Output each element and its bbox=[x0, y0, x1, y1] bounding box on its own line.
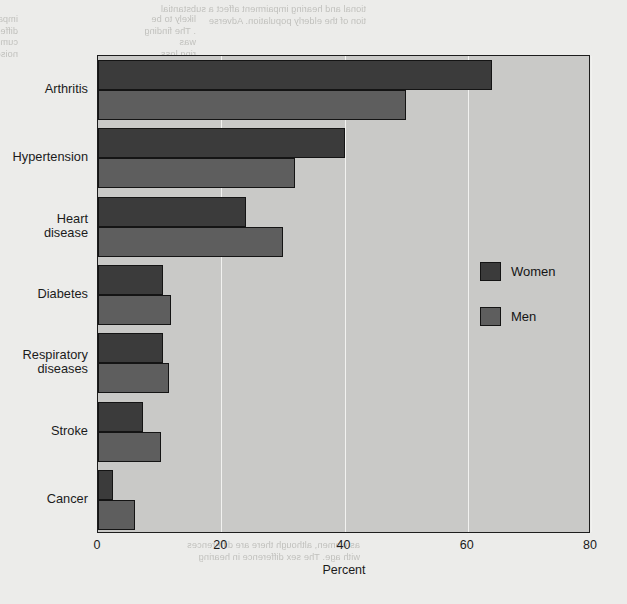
legend-item: Women bbox=[480, 262, 556, 281]
bar bbox=[98, 158, 295, 188]
bar bbox=[98, 470, 113, 500]
bar bbox=[98, 500, 135, 530]
background-bleed-text-top-left: impairment may be attributed in part to … bbox=[0, 14, 18, 60]
x-tick-label: 40 bbox=[337, 538, 351, 552]
legend-swatch-men bbox=[480, 307, 501, 326]
y-category-label: Heart disease bbox=[44, 212, 88, 240]
bar bbox=[98, 363, 169, 393]
y-category-label: Arthritis bbox=[45, 82, 88, 96]
y-category-label: Hypertension bbox=[13, 150, 88, 164]
legend-label: Men bbox=[511, 309, 536, 324]
gridline-80 bbox=[591, 56, 592, 532]
background-bleed-text-top-mid: likely to be . The finding was ring loss bbox=[20, 14, 196, 60]
gridline-20 bbox=[221, 56, 222, 532]
x-tick-label: 60 bbox=[460, 538, 474, 552]
bar bbox=[98, 402, 143, 432]
y-category-label: Diabetes bbox=[37, 287, 88, 301]
legend-swatch-women bbox=[480, 262, 501, 281]
bar bbox=[98, 227, 283, 257]
bar bbox=[98, 265, 163, 295]
bar bbox=[98, 295, 171, 325]
bar bbox=[98, 432, 161, 462]
x-tick-label: 80 bbox=[583, 538, 597, 552]
y-category-label: Respiratory diseases bbox=[23, 348, 88, 376]
background-bleed-text-bottom: as women, although there are differences… bbox=[98, 540, 360, 563]
x-tick-label: 20 bbox=[213, 538, 227, 552]
chart-figure: WomenMen bbox=[97, 55, 590, 533]
chart-legend: WomenMen bbox=[480, 262, 556, 352]
gridline-40 bbox=[345, 56, 346, 532]
legend-item: Men bbox=[480, 307, 556, 326]
gridline-60 bbox=[468, 56, 469, 532]
bar bbox=[98, 90, 406, 120]
x-tick-label: 0 bbox=[94, 538, 101, 552]
bar bbox=[98, 333, 163, 363]
x-axis-title: Percent bbox=[322, 563, 365, 577]
legend-label: Women bbox=[511, 264, 556, 279]
y-category-label: Cancer bbox=[47, 492, 88, 506]
y-category-label: Stroke bbox=[51, 424, 88, 438]
bar bbox=[98, 60, 492, 90]
background-bleed-text-header: tional and hearing impairment affect a s… bbox=[108, 4, 366, 27]
bar bbox=[98, 128, 345, 158]
bar bbox=[98, 197, 246, 227]
